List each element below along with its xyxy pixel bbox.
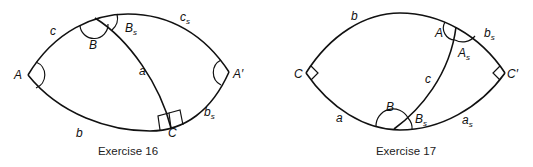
label-a: a: [336, 111, 343, 125]
angle-Bs-mark: [408, 118, 412, 130]
label-c: c: [50, 24, 56, 38]
figure-exercise-16: c B Bs cs A A′ a bs b C Exercise 16: [13, 10, 244, 157]
caption-exercise-17: Exercise 17: [376, 145, 436, 157]
label-A: A: [434, 26, 443, 40]
angle-B-mark: [80, 24, 108, 39]
label-b: b: [76, 126, 83, 140]
label-C: C: [294, 67, 303, 81]
spherical-triangle-exercises: c B Bs cs A A′ a bs b C Exercise 16 b A …: [0, 0, 533, 167]
angle-Bs-mark: [112, 14, 117, 30]
label-As: As: [457, 46, 470, 62]
angle-A-mark: [36, 62, 45, 88]
right-angle-C-right: [169, 110, 183, 125]
lower-arc-b-bs: [28, 72, 229, 131]
label-as: as: [462, 113, 473, 129]
label-B: B: [89, 38, 97, 52]
caption-exercise-16: Exercise 16: [98, 145, 158, 157]
right-angle-C-prime-mark: [493, 66, 500, 80]
label-c: c: [425, 72, 431, 86]
label-A: A: [13, 68, 22, 82]
angle-A-prime-mark: [213, 60, 221, 85]
label-B: B: [386, 100, 394, 114]
label-Bs: Bs: [415, 112, 427, 128]
right-angle-C-mark: [311, 66, 318, 80]
label-Bs: Bs: [125, 21, 137, 37]
figure-exercise-17: b A bs As C C′ c B Bs a as Exercise 17: [294, 9, 519, 157]
label-a: a: [139, 64, 146, 78]
label-C: C: [168, 126, 177, 140]
label-b: b: [351, 9, 358, 23]
label-bs: bs: [484, 26, 495, 42]
label-bs: bs: [204, 105, 215, 121]
label-cs: cs: [180, 10, 190, 26]
label-A-prime: A′: [232, 67, 244, 81]
upper-arc-b-bs: [306, 13, 505, 73]
label-C-prime: C′: [507, 67, 519, 81]
